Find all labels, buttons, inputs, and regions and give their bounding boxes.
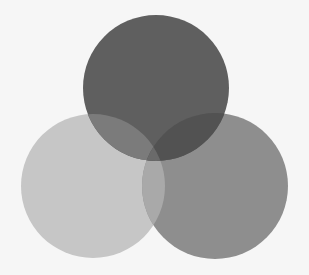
venn-diagram [0,0,309,275]
